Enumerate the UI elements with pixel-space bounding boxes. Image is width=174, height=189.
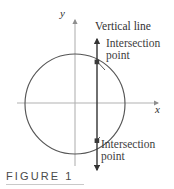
leader-line-top	[99, 63, 106, 70]
intersection-label-bottom-line2: point	[101, 150, 155, 162]
intersection-label-bottom-line1: Intersection	[101, 138, 155, 150]
intersection-label-top: Intersection point	[106, 37, 160, 61]
figure-container: y x Vertical line Intersection point Int…	[0, 0, 174, 189]
figure-caption: FIGURE 1	[6, 170, 84, 185]
axis-label-y: y	[60, 8, 65, 20]
axis-label-x: x	[155, 104, 160, 116]
intersection-label-top-line1: Intersection	[106, 37, 160, 49]
intersection-label-top-line2: point	[106, 49, 160, 61]
intersection-point-top	[95, 60, 100, 65]
intersection-label-bottom: Intersection point	[101, 138, 155, 162]
intersection-point-bottom	[95, 138, 100, 143]
vertical-line-label: Vertical line	[95, 20, 151, 32]
